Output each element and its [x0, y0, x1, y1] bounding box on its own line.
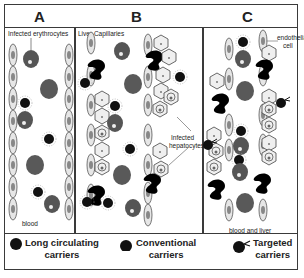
diagram-graphics: [5, 5, 299, 235]
legend-label-line1: Conventional: [136, 237, 196, 249]
legend-label-line1: Long circulating: [25, 237, 99, 249]
legend-label-line2: carriers: [253, 249, 292, 261]
long-circulating-carrier-icon: [9, 237, 25, 251]
diagram-frame: A B C Infected erythrocytes blood Liver …: [4, 4, 298, 270]
legend-item-targeted: Targeted carriers: [231, 237, 292, 261]
legend-label-line2: carriers: [136, 249, 196, 261]
legend: Long circulating carriers Conventional c…: [5, 233, 297, 270]
targeted-carrier-icon: [231, 237, 253, 253]
legend-label-line2: carriers: [25, 249, 99, 261]
legend-item-long-circulating: Long circulating carriers: [9, 237, 99, 261]
legend-item-conventional: Conventional carriers: [118, 237, 196, 261]
conventional-carrier-icon: [118, 237, 136, 251]
legend-label-line1: Targeted: [253, 237, 292, 249]
